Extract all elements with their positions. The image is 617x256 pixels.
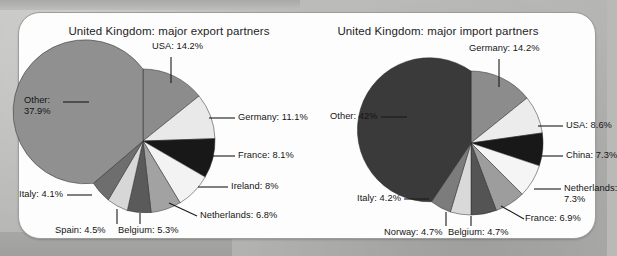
label-netherlands-line2: 7.3% — [564, 194, 585, 206]
label-germany: Germany: 14.2% — [469, 43, 539, 55]
label-germany: Germany: 11.1% — [238, 112, 308, 124]
label-italy: Italy: 4.2% — [357, 193, 401, 205]
label-france: France: 8.1% — [238, 150, 294, 162]
export-partners-chart: United Kingdom: major export partners — [19, 13, 319, 240]
figure-panel: United Kingdom: major export partners — [18, 12, 596, 239]
label-spain: Spain: 4.5% — [55, 225, 106, 237]
background-band-top — [0, 0, 300, 10]
label-other-line2: 37.9% — [24, 106, 51, 118]
label-france: France: 6.9% — [525, 213, 581, 225]
label-norway: Norway: 4.7% — [384, 227, 442, 239]
label-netherlands: Netherlands: 6.8% — [200, 210, 277, 222]
label-other: Other: 42% — [330, 111, 378, 123]
label-usa: USA: 14.2% — [152, 41, 203, 53]
label-china: China: 7.3% — [566, 150, 617, 162]
label-ireland: Ireland: 8% — [231, 181, 279, 193]
leader-line-netherlands — [169, 203, 197, 216]
label-other-line1: Other: — [24, 95, 50, 107]
label-belgium: Belgium: 4.7% — [448, 227, 509, 239]
label-belgium: Belgium: 5.3% — [118, 225, 179, 237]
leader-line-france — [501, 206, 524, 219]
import-partners-chart: United Kingdom: major import partners — [311, 13, 597, 240]
label-netherlands-line1: Netherlands: — [564, 183, 617, 195]
label-italy: Italy: 4.1% — [19, 189, 63, 201]
import-pie-svg — [311, 13, 597, 240]
label-usa: USA: 8.6% — [566, 120, 612, 132]
